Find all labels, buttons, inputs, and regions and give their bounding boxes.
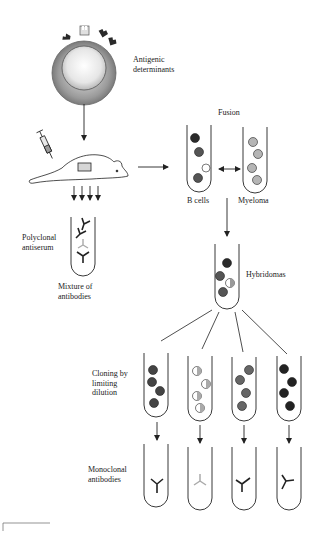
monoclonal-tube-4 <box>277 447 301 510</box>
clone-tube-1 <box>144 353 168 417</box>
label-cloning-by-limiting-dilution: Cloning by limiting dilution <box>92 369 128 398</box>
clone-tube-4 <box>277 356 301 421</box>
antibody-icon <box>282 475 294 489</box>
antigen-cell <box>52 26 118 105</box>
label-myeloma: Myeloma <box>238 196 269 206</box>
label-polyclonal-antiserum: Polyclonal antiserum <box>22 233 56 252</box>
clone-tube-2 <box>188 356 212 421</box>
clone-tube-3 <box>232 357 256 421</box>
b-cell-tube <box>187 125 211 192</box>
label-hybridomas: Hybridomas <box>246 270 286 280</box>
corner-mark <box>3 523 50 531</box>
monoclonal-tube-3 <box>232 447 256 510</box>
divergence-lines <box>161 310 287 354</box>
diagram-canvas <box>0 0 314 533</box>
arrows-clone-to-monoclonal <box>157 422 289 443</box>
label-antigenic-determinants: Antigenic determinants <box>133 55 174 74</box>
antibody-icon <box>78 239 88 248</box>
antibody-icon <box>236 478 250 492</box>
antibody-icon <box>76 218 90 238</box>
antibody-icon <box>77 252 89 263</box>
antibody-icon <box>151 479 163 493</box>
hybridoma-tube <box>215 244 239 309</box>
polyclonal-tube <box>71 217 95 276</box>
label-b-cells: B cells <box>187 196 209 206</box>
label-mixture-of-antibodies: Mixture of antibodies <box>58 282 92 301</box>
label-monoclonal-antibodies: Monoclonal antibodies <box>88 465 127 484</box>
myeloma-tube <box>243 127 267 193</box>
arrows-mouse-to-polyclonal <box>74 186 98 200</box>
label-fusion: Fusion <box>218 108 240 118</box>
monoclonal-tube-2 <box>188 447 212 510</box>
antibody-icon <box>194 474 206 485</box>
monoclonal-tube-1 <box>144 444 168 507</box>
mouse-icon <box>29 130 128 183</box>
